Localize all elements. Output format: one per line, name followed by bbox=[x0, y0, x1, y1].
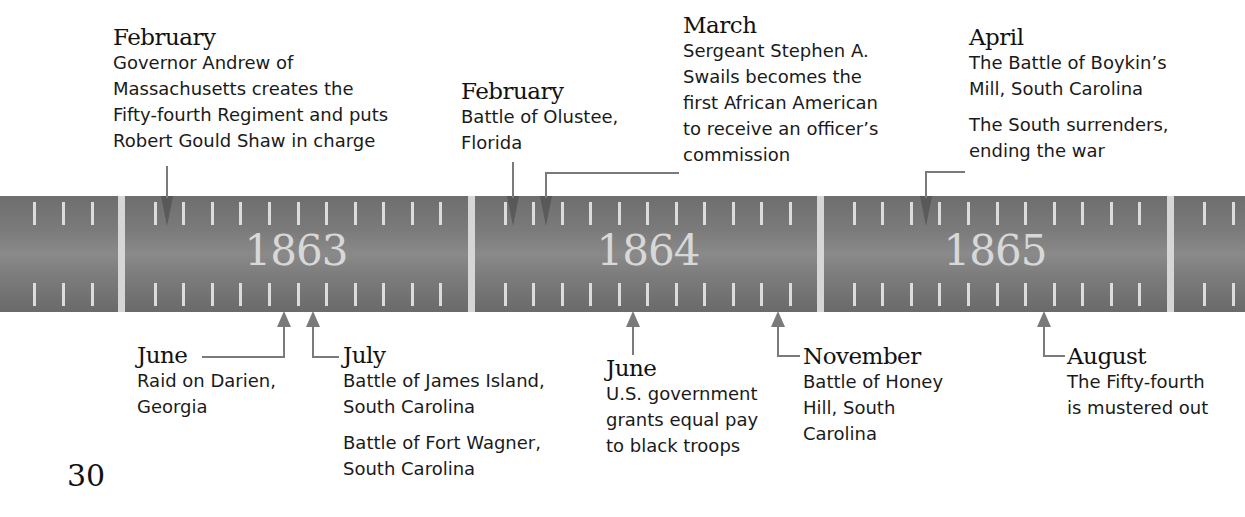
event-month: April bbox=[969, 24, 1169, 50]
page-number: 30 bbox=[67, 458, 105, 493]
year-separator bbox=[1167, 196, 1174, 312]
month-tick bbox=[618, 202, 621, 225]
month-tick bbox=[182, 202, 185, 225]
connector-mar-1864-h bbox=[545, 172, 679, 174]
month-tick bbox=[789, 283, 792, 306]
month-tick bbox=[239, 283, 242, 306]
connector-mar-1864 bbox=[545, 173, 547, 198]
month-tick bbox=[732, 283, 735, 306]
year-label-1865: 1865 bbox=[944, 226, 1047, 275]
event-desc-line: grants equal pay bbox=[606, 407, 758, 433]
month-tick bbox=[561, 283, 564, 306]
month-tick bbox=[91, 202, 94, 225]
event-month: August bbox=[1067, 343, 1208, 369]
month-tick bbox=[411, 283, 414, 306]
event-desc-line: Sergeant Stephen A. bbox=[683, 38, 878, 64]
year-separator bbox=[817, 196, 824, 312]
month-tick bbox=[910, 283, 913, 306]
month-tick bbox=[382, 202, 385, 225]
month-tick bbox=[354, 283, 357, 306]
month-tick bbox=[62, 202, 65, 225]
month-tick bbox=[703, 283, 706, 306]
month-tick bbox=[439, 283, 442, 306]
month-tick bbox=[382, 283, 385, 306]
month-tick bbox=[33, 202, 36, 225]
connector-jun-1863 bbox=[283, 325, 285, 358]
event-apr-1865: April The Battle of Boykin’s Mill, South… bbox=[969, 24, 1169, 164]
month-tick bbox=[325, 202, 328, 225]
event-month: June bbox=[606, 355, 758, 381]
event-desc-line: Battle of Olustee, bbox=[461, 104, 618, 130]
month-tick bbox=[760, 202, 763, 225]
month-tick bbox=[62, 283, 65, 306]
month-tick bbox=[675, 283, 678, 306]
event-desc-line: The Fifty-fourth bbox=[1067, 369, 1208, 395]
month-tick bbox=[675, 202, 678, 225]
event-desc-line: is mustered out bbox=[1067, 395, 1208, 421]
month-tick bbox=[1024, 202, 1027, 225]
event-desc-line: Swails becomes the bbox=[683, 64, 878, 90]
event-desc-line: South Carolina bbox=[343, 456, 545, 482]
connector-feb-1864 bbox=[512, 162, 514, 198]
connector-jul-1863 bbox=[312, 325, 314, 358]
month-tick bbox=[853, 283, 856, 306]
month-tick bbox=[1053, 202, 1056, 225]
month-tick bbox=[789, 202, 792, 225]
month-tick bbox=[589, 283, 592, 306]
month-tick bbox=[1053, 283, 1056, 306]
bar-segment-1862 bbox=[0, 196, 118, 312]
pointer-mar-1864 bbox=[540, 196, 552, 226]
month-tick bbox=[1203, 283, 1206, 306]
month-tick bbox=[938, 283, 941, 306]
event-desc-line: Georgia bbox=[137, 394, 276, 420]
event-desc-line: Mill, South Carolina bbox=[969, 76, 1169, 102]
event-month: July bbox=[343, 342, 545, 368]
month-tick bbox=[760, 283, 763, 306]
event-jun-1864: June U.S. government grants equal pay to… bbox=[606, 355, 758, 459]
month-tick bbox=[1110, 283, 1113, 306]
event-feb-1864: February Battle of Olustee, Florida bbox=[461, 78, 618, 156]
year-label-1864: 1864 bbox=[597, 226, 700, 275]
month-tick bbox=[532, 283, 535, 306]
event-desc-line: Florida bbox=[461, 130, 618, 156]
month-tick bbox=[646, 202, 649, 225]
pointer-feb-1863 bbox=[161, 196, 173, 226]
month-tick bbox=[211, 202, 214, 225]
year-separator bbox=[468, 196, 475, 312]
month-tick bbox=[91, 283, 94, 306]
month-tick bbox=[239, 202, 242, 225]
month-tick bbox=[411, 202, 414, 225]
connector-feb-1863 bbox=[166, 166, 168, 198]
connector-nov-1864-h bbox=[777, 355, 800, 357]
month-tick bbox=[996, 202, 999, 225]
month-tick bbox=[561, 202, 564, 225]
connector-aug-1865 bbox=[1043, 325, 1045, 357]
month-tick bbox=[154, 202, 157, 225]
event-desc-line: The Battle of Boykin’s bbox=[969, 50, 1169, 76]
event-nov-1864: November Battle of Honey Hill, South Car… bbox=[803, 343, 943, 447]
connector-apr-1865 bbox=[925, 172, 927, 198]
month-tick bbox=[1081, 202, 1084, 225]
month-tick bbox=[1081, 283, 1084, 306]
event-jun-1863: June Raid on Darien, Georgia bbox=[137, 342, 276, 420]
timeline-bar: 1863 1864 1865 bbox=[0, 196, 1245, 312]
month-tick bbox=[268, 283, 271, 306]
event-aug-1865: August The Fifty-fourth is mustered out bbox=[1067, 343, 1208, 421]
month-tick bbox=[589, 202, 592, 225]
pointer-apr-1865 bbox=[920, 196, 932, 226]
connector-jun-1864 bbox=[632, 325, 634, 355]
month-tick bbox=[967, 283, 970, 306]
month-tick bbox=[297, 202, 300, 225]
event-desc-line: The South surrenders, bbox=[969, 112, 1169, 138]
month-tick bbox=[646, 283, 649, 306]
event-desc-line: Hill, South bbox=[803, 395, 943, 421]
month-tick bbox=[354, 202, 357, 225]
month-tick bbox=[1232, 283, 1235, 306]
event-feb-1863: February Governor Andrew of Massachusett… bbox=[113, 24, 388, 154]
event-desc-line: commission bbox=[683, 142, 878, 168]
event-desc-line: Carolina bbox=[803, 421, 943, 447]
year-separator bbox=[118, 196, 125, 312]
event-desc-line: Battle of Honey bbox=[803, 369, 943, 395]
month-tick bbox=[1138, 202, 1141, 225]
month-tick bbox=[881, 202, 884, 225]
